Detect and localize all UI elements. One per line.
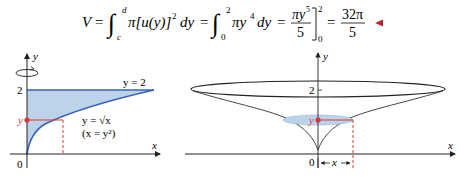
right-figure: y x 0 2 y x (185, 50, 455, 168)
curve-label: y = √x (82, 114, 111, 126)
right-tick-2-label: 2 (309, 84, 315, 96)
right-point-label: y (308, 114, 314, 126)
right-origin-label: 0 (309, 156, 315, 168)
right-point (315, 117, 320, 122)
right-y-axis-label: y (322, 50, 328, 62)
figures: y x 0 2 y y = 2 y = √x (x = y²) y x 0 2 (0, 0, 461, 181)
left-y-axis-label: y (32, 50, 38, 62)
left-figure: y x 0 2 y y = 2 y = √x (x = y²) (10, 50, 160, 170)
right-x-axis-label: x (447, 139, 453, 151)
left-origin-label: 0 (17, 158, 23, 170)
radius-x-label: x (331, 156, 337, 168)
left-x-axis-label: x (151, 139, 157, 151)
line-y2-label: y = 2 (123, 76, 146, 88)
left-tick-2-label: 2 (17, 84, 23, 96)
left-point (24, 117, 29, 122)
left-point-label: y (17, 114, 23, 126)
curve-label-alt: (x = y²) (82, 127, 116, 140)
